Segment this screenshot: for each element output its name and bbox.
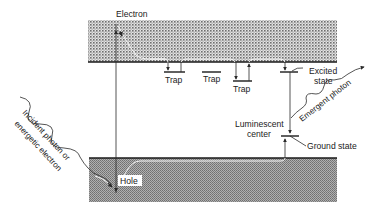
trap-3 <box>233 62 252 81</box>
trap-1 <box>164 62 185 72</box>
excited-state-label-line2: state <box>314 76 333 86</box>
luminescent-center-label-line1: Luminescent <box>235 119 284 129</box>
trap-2-label: Trap <box>203 74 221 84</box>
energy-band-diagram: Electron Hole Trap Trap Trap Excited sta… <box>0 0 375 212</box>
ground-state-level <box>281 136 306 158</box>
excited-state-level <box>280 62 303 72</box>
luminescent-center-label-line2: center <box>247 129 271 139</box>
conduction-band <box>88 20 337 62</box>
hole-label: Hole <box>120 176 138 186</box>
electron-label: Electron <box>116 9 148 19</box>
excited-state-label-line1: Excited <box>309 66 337 76</box>
trap-1-label: Trap <box>165 75 183 85</box>
trap-3-label: Trap <box>233 84 251 94</box>
ground-state-label: Ground state <box>307 141 357 151</box>
